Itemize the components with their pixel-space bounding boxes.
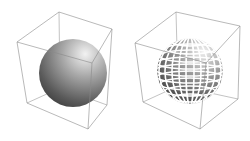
left-sphere — [39, 39, 107, 107]
figure-svg — [0, 0, 250, 141]
right-panel — [135, 12, 240, 129]
left-panel — [17, 12, 112, 129]
figure — [0, 0, 250, 141]
right-patch-sphere — [156, 37, 224, 105]
